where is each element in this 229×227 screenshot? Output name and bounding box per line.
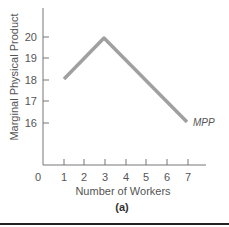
x-tick-label: 5 [143, 171, 149, 183]
x-tick-label: 4 [123, 171, 129, 183]
y-tick-label: 20 [25, 31, 37, 43]
y-tick-label: 16 [25, 117, 37, 129]
x-tick-label: 1 [61, 171, 67, 183]
y-axis-title: Marginal Physical Product [8, 13, 20, 140]
x-axis-title: Number of Workers [75, 185, 171, 197]
x-origin-label: 0 [35, 171, 41, 183]
x-tick-label: 2 [81, 171, 87, 183]
x-tick-label: 7 [185, 171, 191, 183]
mpp-line [64, 38, 187, 122]
y-tick-label: 17 [25, 95, 37, 107]
x-tick-label: 6 [164, 171, 170, 183]
panel-label: (a) [115, 201, 129, 213]
x-tick-label: 3 [102, 171, 108, 183]
y-tick-label: 19 [25, 52, 37, 64]
y-tick-label: 18 [25, 74, 37, 86]
chart: 16 17 18 19 20 0 1 2 3 4 5 6 7 MPP Numbe… [0, 0, 229, 227]
series-label-mpp: MPP [193, 117, 215, 128]
x-ticks: 0 1 2 3 4 5 6 7 [35, 159, 191, 183]
y-ticks: 16 17 18 19 20 [25, 31, 49, 129]
